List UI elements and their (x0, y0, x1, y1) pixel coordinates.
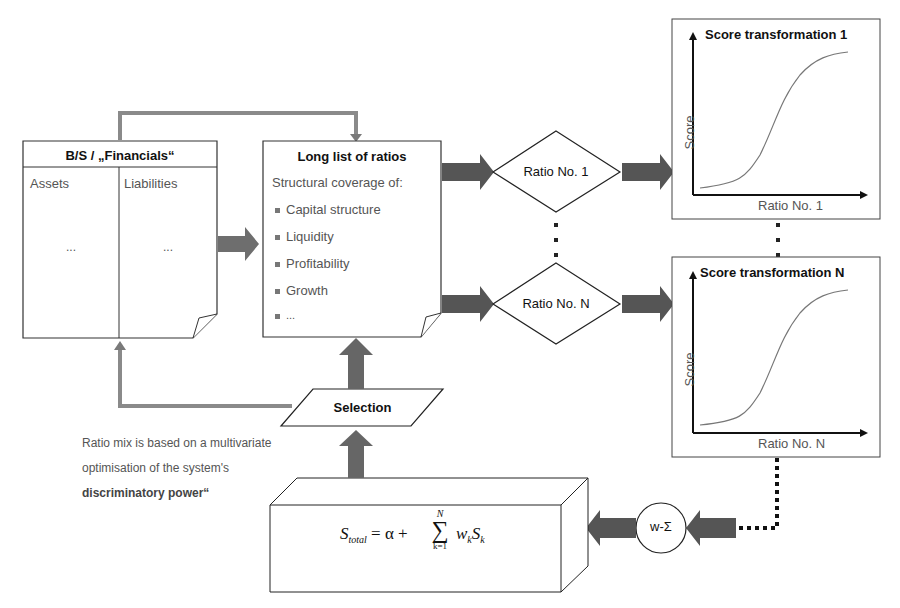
aggregator-label: w-Σ (636, 519, 686, 534)
ellipsis-dots-diamonds (554, 223, 558, 257)
formula-term: wkSk (456, 524, 485, 545)
liabilities-placeholder: ... (119, 240, 217, 254)
connector-financials-to-ratios (120, 113, 362, 142)
arrow-into-aggregator (686, 510, 736, 546)
arrow-formula-to-selection (339, 430, 373, 478)
ratios-list-item: ... (275, 309, 295, 321)
note-line-3: discriminatory power“ (82, 486, 209, 500)
bullet-icon (275, 314, 280, 319)
arrow-aggregator-to-formula (586, 510, 636, 546)
selection-label: Selection (290, 400, 435, 415)
score-chart-1-xlabel: Ratio No. 1 (758, 198, 823, 213)
note-line-2: optimisation of the system's (82, 461, 229, 475)
arrow-ratios-to-ratio1 (442, 154, 494, 190)
arrow-ratio1-to-chart1 (622, 154, 674, 190)
bullet-icon (275, 235, 280, 240)
ratio-1-label: Ratio No. 1 (500, 164, 612, 179)
ellipsis-dots-charts (776, 223, 780, 257)
score-chart-1-title: Score transformation 1 (705, 27, 847, 42)
arrow-ratioN-to-chartN (622, 286, 674, 322)
bullet-icon (275, 289, 280, 294)
connector-selection-to-financials (114, 341, 292, 406)
arrow-financials-to-ratios (218, 227, 259, 261)
arrow-ratios-to-ratioN (442, 286, 494, 322)
ratios-list-item: Capital structure (275, 202, 381, 217)
ratios-list-subtitle: Structural coverage of: (272, 175, 403, 190)
ratio-N-label: Ratio No. N (500, 296, 612, 311)
bullet-icon (275, 208, 280, 213)
ratios-list-title: Long list of ratios (263, 149, 441, 164)
score-chart-N-frame (672, 257, 880, 457)
score-chart-N-xlabel: Ratio No. N (758, 436, 825, 451)
score-chart-1-ylabel: Score (682, 108, 697, 158)
formula: Stotal = α + (340, 524, 408, 545)
ratios-list-item: Growth (275, 283, 328, 298)
score-chart-N-ylabel: Score (682, 345, 697, 395)
ratios-list-item: Profitability (275, 256, 350, 271)
assets-placeholder: ... (23, 240, 119, 254)
liabilities-column-label: Liabilities (124, 176, 177, 191)
formula-sum: N ∑ k=1 (428, 508, 452, 551)
score-chart-1-frame (672, 19, 880, 219)
note-line-1: Ratio mix is based on a multivariate (82, 436, 271, 450)
assets-column-label: Assets (30, 176, 69, 191)
bullet-icon (275, 262, 280, 267)
connector-chart-to-aggregator (736, 458, 777, 528)
ratios-list-item: Liquidity (275, 229, 334, 244)
score-chart-N-title: Score transformation N (700, 265, 844, 280)
financials-title: B/S / „Financials“ (23, 148, 217, 163)
arrow-selection-to-ratios (339, 338, 373, 389)
